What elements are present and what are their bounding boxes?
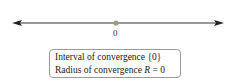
interval-label: Interval of convergence bbox=[55, 52, 147, 62]
convergence-info-box: Interval of convergence {0} Radius of co… bbox=[49, 49, 181, 78]
radius-line: Radius of convergence R = 0 bbox=[55, 64, 180, 77]
radius-label: Radius of convergence bbox=[55, 65, 144, 75]
interval-line: Interval of convergence {0} bbox=[55, 51, 180, 64]
radius-value: = 0 bbox=[150, 65, 165, 75]
point-zero-marker bbox=[113, 20, 118, 25]
interval-value: {0} bbox=[147, 52, 161, 62]
tick-label-zero: 0 bbox=[113, 28, 118, 38]
